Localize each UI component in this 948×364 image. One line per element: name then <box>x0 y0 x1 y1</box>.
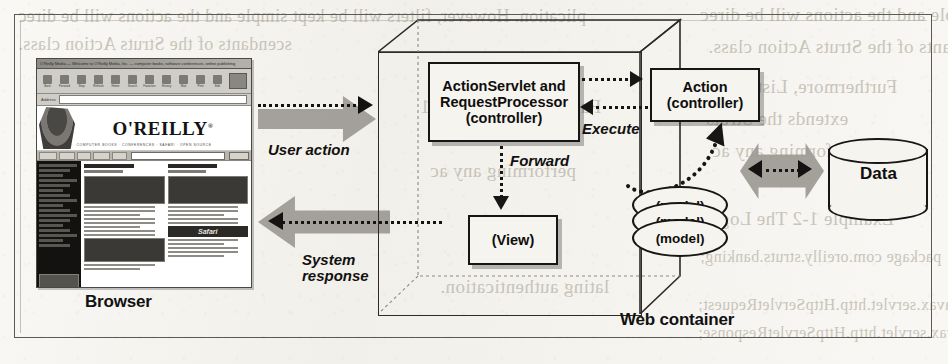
oreilly-wordmark-text: O'REILLY <box>113 119 208 140</box>
system-response-label: System response <box>302 252 388 284</box>
toolbar-button-search[interactable]: Search <box>126 75 139 88</box>
site-search-button[interactable] <box>229 152 249 160</box>
node-view[interactable]: (View) <box>468 215 558 265</box>
body-text-line <box>168 251 239 253</box>
caption-browser: Browser <box>85 292 152 312</box>
body-text-line <box>84 210 155 212</box>
body-text-line <box>84 222 155 224</box>
sidebar-link[interactable] <box>39 229 70 232</box>
browser-viewport[interactable]: O'REILLY® COMPUTER BOOKS · CONFERENCES ·… <box>37 106 251 288</box>
sidebar-link[interactable] <box>39 189 63 192</box>
sidebar-link[interactable] <box>39 209 70 212</box>
body-text-line <box>168 239 239 241</box>
oreilly-page-body: Safari <box>37 161 251 288</box>
node-servlet-line3: (controller) <box>440 110 568 126</box>
browser-window[interactable]: O'Reilly Media — Welcome to O'Reilly Med… <box>36 58 252 288</box>
article-thumbnail[interactable] <box>168 176 249 204</box>
sidebar-link[interactable] <box>39 204 63 207</box>
node-action-line1: Action <box>667 79 744 95</box>
model-ellipse[interactable]: (model) <box>632 219 728 257</box>
sidebar-link[interactable] <box>39 219 70 222</box>
sidebar-link[interactable] <box>39 184 70 187</box>
column-subheading <box>168 170 207 173</box>
tarsier-logo-icon <box>39 107 75 149</box>
execute-request-arrowhead-icon <box>630 71 643 87</box>
sidebar-promo-badge[interactable] <box>39 274 79 288</box>
toolbar-button-label: Home <box>111 85 119 88</box>
sidebar-link[interactable] <box>39 244 70 247</box>
toolbar-button-back[interactable]: Back <box>41 75 54 88</box>
browser-brand-logo-icon <box>229 73 247 89</box>
body-text-line <box>84 206 155 208</box>
toolbar-button-stop[interactable]: Stop <box>75 75 88 88</box>
toolbar-button-forward[interactable]: Forward <box>58 75 71 88</box>
sidebar-link[interactable] <box>39 234 77 237</box>
toolbar-button-label: Mail <box>181 85 187 88</box>
toolbar-button-history[interactable]: History <box>160 75 173 88</box>
execute-request-dotted-line <box>582 78 634 81</box>
toolbar-button-mail[interactable]: Mail <box>177 75 190 88</box>
cylinder-top-ellipse <box>828 138 928 164</box>
toolbar-button-refresh[interactable]: Refresh <box>92 75 105 88</box>
toolbar-button-home[interactable]: Home <box>109 75 122 88</box>
site-search-input[interactable] <box>131 152 225 160</box>
node-servlet-line2: RequestProcessor <box>440 94 568 110</box>
body-text-line <box>84 264 155 266</box>
nav-chip[interactable] <box>59 152 75 160</box>
sidebar-link[interactable] <box>39 239 63 242</box>
sidebar-link[interactable] <box>39 214 77 217</box>
sidebar-link[interactable] <box>39 194 70 197</box>
stop-icon <box>77 75 86 84</box>
browser-toolbar[interactable]: Back Forward Stop Refresh Home Search <box>37 69 251 94</box>
body-text-line <box>168 247 239 249</box>
browser-address-bar[interactable]: Address <box>37 94 251 106</box>
toolbar-button-label: Back <box>44 85 51 88</box>
clock-icon <box>162 75 171 84</box>
article-thumbnail[interactable] <box>84 238 165 262</box>
sidebar-link[interactable] <box>39 199 77 202</box>
sidebar-link[interactable] <box>39 174 63 177</box>
address-bar-label: Address <box>41 97 56 102</box>
address-input[interactable] <box>59 95 247 104</box>
nav-chip[interactable] <box>93 152 110 160</box>
data-access-arrowhead-right-icon <box>798 160 812 178</box>
body-text-line <box>168 218 239 220</box>
toolbar-button-label: Stop <box>78 85 84 88</box>
body-text-line <box>84 214 140 216</box>
toolbar-button-label: Edit <box>215 85 220 88</box>
oreilly-wordmark: O'REILLY® <box>75 117 251 138</box>
toolbar-button-edit[interactable]: Edit <box>211 75 224 88</box>
execute-label: Execute <box>582 120 640 137</box>
user-action-arrowhead-icon <box>358 96 373 114</box>
oreilly-navbar[interactable] <box>37 151 251 161</box>
column-heading <box>168 164 218 168</box>
safari-logo[interactable]: Safari <box>168 226 249 237</box>
data-store-cylinder[interactable]: Data <box>828 138 926 218</box>
browser-titlebar: O'Reilly Media — Welcome to O'Reilly Med… <box>37 59 251 69</box>
oreilly-content: Safari <box>81 161 251 288</box>
sidebar-link[interactable] <box>39 179 77 182</box>
toolbar-button-favorites[interactable]: Favorites <box>143 75 156 88</box>
toolbar-button-print[interactable]: Print <box>194 75 207 88</box>
sidebar-link[interactable] <box>39 224 63 227</box>
nav-chip[interactable] <box>77 152 91 160</box>
oreilly-sidebar[interactable] <box>37 161 81 288</box>
node-action-controller[interactable]: Action (controller) <box>650 68 760 122</box>
nav-chip[interactable] <box>112 152 127 160</box>
article-thumbnail[interactable] <box>84 176 165 204</box>
forward-dotted-line <box>500 146 503 198</box>
body-text-line <box>168 210 239 212</box>
system-response-label-line2: response <box>302 268 388 284</box>
node-actionservlet-requestprocessor[interactable]: ActionServlet and RequestProcessor (cont… <box>428 62 580 142</box>
body-text-line <box>84 226 140 228</box>
star-icon <box>145 75 154 84</box>
data-access-arrowhead-left-icon <box>748 160 762 178</box>
body-text-line <box>168 243 224 245</box>
print-icon <box>196 75 205 84</box>
content-column-news: Safari <box>168 164 249 288</box>
nav-chip[interactable] <box>39 152 57 160</box>
sidebar-link[interactable] <box>39 169 70 172</box>
sidebar-link[interactable] <box>39 164 77 167</box>
body-text-line <box>84 218 155 220</box>
body-text-line <box>84 234 155 236</box>
